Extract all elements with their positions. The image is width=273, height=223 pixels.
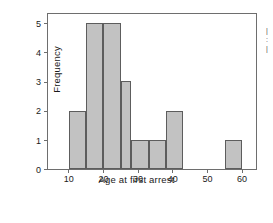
edge-text-line: | bbox=[266, 44, 273, 53]
y-tick: 4 bbox=[36, 43, 48, 61]
x-tick-mark bbox=[68, 169, 69, 173]
histogram-bar bbox=[69, 111, 86, 169]
histogram-bar bbox=[166, 111, 183, 169]
y-axis-label: Frequency bbox=[51, 10, 62, 130]
x-tick-mark bbox=[242, 169, 243, 173]
y-tick-label: 4 bbox=[36, 48, 44, 58]
y-tick-mark bbox=[44, 140, 48, 141]
histogram-bar bbox=[131, 140, 148, 169]
y-tick-label: 1 bbox=[36, 136, 44, 146]
x-tick-mark bbox=[172, 169, 173, 173]
y-tick: 3 bbox=[36, 72, 48, 90]
histogram-bar bbox=[121, 81, 131, 169]
y-tick-mark bbox=[44, 111, 48, 112]
x-tick-mark bbox=[138, 169, 139, 173]
plot-area: 012345 102030405060 Frequency bbox=[47, 13, 257, 170]
histogram-figure: 012345 102030405060 Frequency Age at fir… bbox=[0, 0, 273, 223]
y-tick-mark bbox=[44, 23, 48, 24]
y-tick: 2 bbox=[36, 102, 48, 120]
y-tick-mark bbox=[44, 82, 48, 83]
x-tick-mark bbox=[207, 169, 208, 173]
edge-text-line: | bbox=[266, 26, 273, 35]
x-tick-mark bbox=[103, 169, 104, 173]
y-tick: 5 bbox=[36, 14, 48, 32]
y-tick-mark bbox=[44, 52, 48, 53]
histogram-bar bbox=[103, 23, 120, 169]
edge-text-line: : bbox=[266, 35, 273, 44]
histogram-bar bbox=[86, 23, 103, 169]
y-tick-label: 2 bbox=[36, 106, 44, 116]
histogram-bar bbox=[225, 140, 242, 169]
y-tick: 1 bbox=[36, 131, 48, 149]
bar-series bbox=[48, 14, 256, 169]
y-tick-mark bbox=[44, 169, 48, 170]
y-tick-label: 5 bbox=[36, 19, 44, 29]
y-tick-label: 3 bbox=[36, 77, 44, 87]
edge-text-fragment: |:| bbox=[266, 26, 273, 53]
x-axis-label: Age at first arrest bbox=[0, 174, 273, 185]
histogram-bar bbox=[149, 140, 166, 169]
